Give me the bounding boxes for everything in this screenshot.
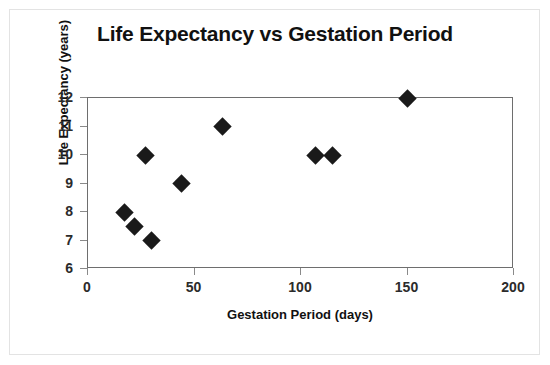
plot-area	[87, 97, 513, 268]
y-axis-tick-label: 8	[33, 203, 73, 219]
data-point	[173, 174, 191, 192]
x-axis-tick-label: 100	[270, 279, 330, 295]
x-axis-tick	[513, 268, 514, 275]
x-axis-tick-label: 200	[483, 279, 543, 295]
x-axis-tick	[407, 268, 408, 275]
y-axis-tick	[80, 268, 87, 269]
y-axis-tick-label: 12	[33, 89, 73, 105]
x-axis-tick	[300, 268, 301, 275]
x-axis-tick-label: 150	[377, 279, 437, 295]
x-axis-tick-label: 0	[57, 279, 117, 295]
chart-figure: Life Expectancy vs Gestation Period Life…	[0, 0, 550, 365]
data-point	[324, 146, 342, 164]
x-axis-tick	[194, 268, 195, 275]
y-axis-tick-label: 9	[33, 175, 73, 191]
y-axis-tick-label: 7	[33, 232, 73, 248]
data-point	[398, 89, 416, 107]
y-axis-tick	[80, 240, 87, 241]
y-axis-tick-label: 10	[33, 146, 73, 162]
data-point	[213, 117, 231, 135]
x-axis-ticks: 050100150200	[87, 268, 513, 276]
y-axis-tick-label: 6	[33, 260, 73, 276]
y-axis-tick	[80, 97, 87, 98]
y-axis-tick	[80, 211, 87, 212]
y-axis-tick	[80, 154, 87, 155]
y-axis-tick-label: 11	[33, 118, 73, 134]
y-axis-tick	[80, 126, 87, 127]
data-point	[126, 217, 144, 235]
chart-title: Life Expectancy vs Gestation Period	[0, 22, 550, 46]
y-axis-ticks: 6789101112	[79, 97, 87, 268]
x-axis-tick-label: 50	[164, 279, 224, 295]
data-point	[143, 231, 161, 249]
data-point	[115, 203, 133, 221]
y-axis-tick	[80, 183, 87, 184]
data-point	[136, 146, 154, 164]
x-axis-tick	[87, 268, 88, 275]
x-axis-title: Gestation Period (days)	[87, 307, 513, 322]
